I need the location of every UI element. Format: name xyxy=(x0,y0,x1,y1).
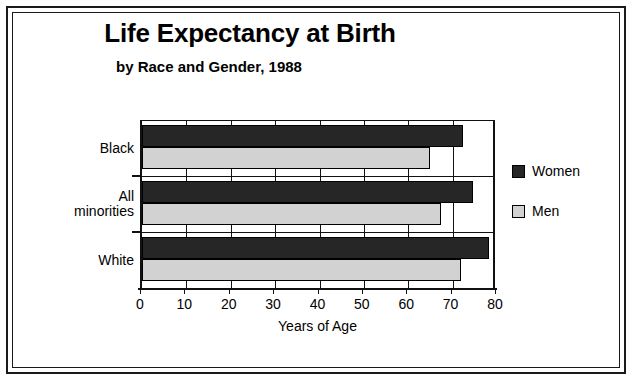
category-label-black: Black xyxy=(14,141,134,156)
x-tick-label-60: 60 xyxy=(386,296,426,312)
x-tick-label-10: 10 xyxy=(164,296,204,312)
x-axis-title: Years of Age xyxy=(140,318,495,334)
bar-all-minorities-women xyxy=(142,181,473,203)
x-tick-label-40: 40 xyxy=(298,296,338,312)
x-tick-80 xyxy=(495,288,496,294)
x-tick-20 xyxy=(229,288,230,294)
legend-item-men: Men xyxy=(512,203,580,219)
x-tick-10 xyxy=(184,288,185,294)
category-label-white: White xyxy=(14,253,134,268)
bar-black-men xyxy=(142,147,430,169)
bar-black-women xyxy=(142,125,463,147)
legend-label-women: Women xyxy=(532,163,580,179)
x-tick-50 xyxy=(362,288,363,294)
category-label-text: White xyxy=(14,253,134,268)
x-tick-label-30: 30 xyxy=(253,296,293,312)
category-label-text: Black xyxy=(14,141,134,156)
x-tick-label-50: 50 xyxy=(342,296,382,312)
band-separator-1 xyxy=(142,232,493,233)
category-label-all-minorities: Allminorities xyxy=(14,189,134,219)
legend-item-women: Women xyxy=(512,163,580,179)
x-tick-label-20: 20 xyxy=(209,296,249,312)
legend-swatch-women xyxy=(512,165,525,178)
category-tick-2 xyxy=(132,231,140,233)
x-tick-30 xyxy=(273,288,274,294)
category-tick-1 xyxy=(132,175,140,177)
x-tick-40 xyxy=(318,288,319,294)
x-tick-label-0: 0 xyxy=(120,296,160,312)
plot-area xyxy=(140,120,495,288)
x-tick-60 xyxy=(406,288,407,294)
x-tick-0 xyxy=(140,288,141,294)
bar-white-men xyxy=(142,259,461,281)
chart-title: Life Expectancy at Birth xyxy=(0,18,500,49)
category-axis-labels: BlackAllminoritiesWhite xyxy=(8,120,134,288)
chart-subtitle: by Race and Gender, 1988 xyxy=(116,58,302,75)
bar-all-minorities-men xyxy=(142,203,441,225)
x-tick-label-80: 80 xyxy=(475,296,515,312)
chart-legend: Women Men xyxy=(512,163,580,243)
x-tick-label-70: 70 xyxy=(431,296,471,312)
legend-label-men: Men xyxy=(532,203,559,219)
x-tick-70 xyxy=(451,288,452,294)
legend-swatch-men xyxy=(512,205,525,218)
category-label-text: Allminorities xyxy=(14,189,134,219)
band-separator-0 xyxy=(142,176,493,177)
bar-white-women xyxy=(142,237,489,259)
